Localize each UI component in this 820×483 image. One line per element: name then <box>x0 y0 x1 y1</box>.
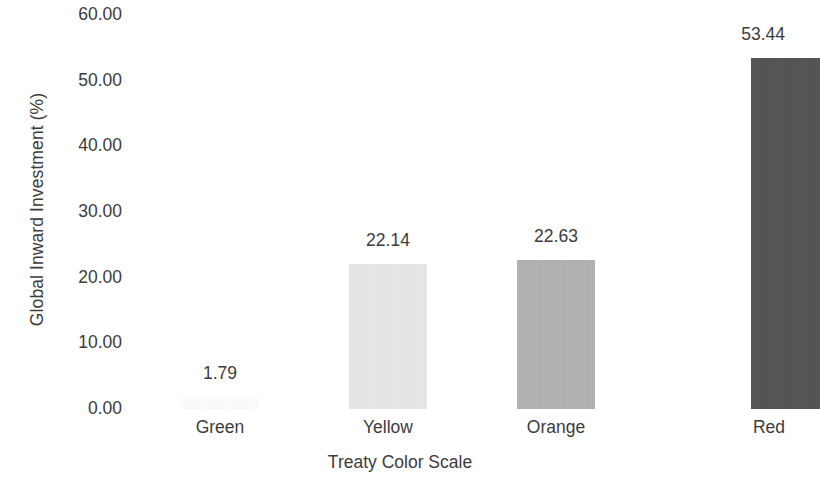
y-axis-tick-label: 20.00 <box>0 269 122 287</box>
bar-group: 22.14Yellow <box>304 0 472 483</box>
bar-value-label: 53.44 <box>741 26 785 44</box>
plot-area: 1.79Green22.14Yellow22.63Orange53.44Red <box>132 0 800 483</box>
bar-yellow[interactable] <box>349 264 427 409</box>
bar-orange[interactable] <box>517 260 595 409</box>
y-axis-tick-label: 30.00 <box>0 203 122 221</box>
x-axis-category-label: Yellow <box>363 419 413 437</box>
y-axis-tick-label: 50.00 <box>0 72 122 90</box>
bar-group: 1.79Green <box>136 0 304 483</box>
y-axis-tick-label: 10.00 <box>0 335 122 353</box>
bar-value-label: 1.79 <box>203 365 237 383</box>
y-axis-tick-label: 40.00 <box>0 138 122 156</box>
bar-red[interactable] <box>751 58 820 409</box>
x-axis-category-label: Red <box>753 419 785 437</box>
x-axis-category-label: Green <box>196 419 245 437</box>
y-axis-tick-labels: 0.0010.0020.0030.0040.0050.0060.00 <box>0 0 132 483</box>
bar-value-label: 22.63 <box>534 228 578 246</box>
x-axis-category-label: Orange <box>527 419 585 437</box>
bar-group: 53.44Red <box>640 0 808 483</box>
y-axis-tick-label: 0.00 <box>0 400 122 418</box>
x-axis-title: Treaty Color Scale <box>0 452 800 473</box>
y-axis-tick-label: 60.00 <box>0 6 122 24</box>
bar-group: 22.63Orange <box>472 0 640 483</box>
bar-value-label: 22.14 <box>366 232 410 250</box>
bar-green[interactable] <box>181 397 259 409</box>
